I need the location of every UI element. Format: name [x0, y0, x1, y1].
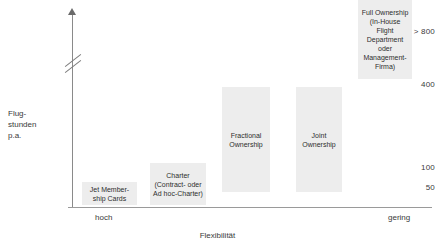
bar-charter: Charter (Contract- oder Ad hoc-Charter)	[150, 163, 206, 205]
bar-jet-membership-cards: Jet Member- ship Cards	[82, 182, 137, 205]
y-axis-break-icon	[62, 52, 84, 74]
bar-joint-ownership: Joint Ownership	[296, 87, 342, 192]
y-axis-title: Flug- stunden p.a.	[8, 108, 66, 141]
y-tick-label-50: 50	[371, 183, 435, 192]
y-tick-label-400: 400	[371, 80, 435, 89]
flight-hours-flexibility-chart: > 800 400 100 50 Flug- stunden p.a. Jet …	[0, 0, 435, 251]
x-axis-line	[68, 207, 432, 208]
x-tick-label-gering: gering	[388, 213, 410, 222]
x-tick-label-hoch: hoch	[95, 213, 112, 222]
bar-label-jet-membership-cards: Jet Member- ship Cards	[88, 185, 131, 203]
x-axis-title: Flexibilität	[0, 231, 435, 240]
bar-full-ownership: Full Ownership (In-House Flight Departme…	[358, 0, 412, 79]
bar-label-full-ownership: Full Ownership (In-House Flight Departme…	[360, 8, 411, 71]
bar-fractional-ownership: Fractional Ownership	[222, 87, 270, 192]
y-tick-label-100: 100	[371, 163, 435, 172]
y-axis-arrowhead-icon	[68, 8, 76, 15]
bar-label-joint-ownership: Joint Ownership	[300, 131, 337, 149]
bar-label-charter: Charter (Contract- oder Ad hoc-Charter)	[151, 171, 205, 198]
bar-label-fractional-ownership: Fractional Ownership	[227, 131, 264, 149]
y-axis-line	[72, 14, 73, 208]
